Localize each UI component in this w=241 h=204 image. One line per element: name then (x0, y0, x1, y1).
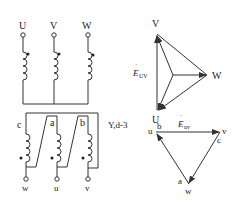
connection-group-label: Y,d-3 (108, 120, 128, 130)
polarity-dot-a (51, 157, 54, 160)
primary-winding-set: U V W (19, 20, 95, 104)
emf-label-uv: E · uv (177, 112, 190, 130)
terminal-label-W: W (82, 20, 92, 31)
coil-U (23, 52, 27, 80)
svg-text:E: E (132, 68, 139, 78)
svg-text:E: E (177, 119, 184, 129)
vertex-label-u: u (148, 126, 153, 136)
phasor-vertex-V: V (152, 18, 160, 29)
coil-c (26, 134, 30, 162)
terminal-label-V: V (50, 20, 58, 31)
winding-label-c: c (17, 119, 22, 130)
vertex-label-w: w (185, 186, 192, 196)
terminal-label-v: v (85, 183, 90, 193)
terminal-W (86, 33, 90, 37)
terminal-v (86, 177, 90, 181)
vertex-label-v: v (222, 126, 227, 136)
emf-label-UV: E · UV (132, 61, 148, 79)
svg-text:UV: UV (139, 73, 148, 79)
winding-label-b: b (80, 117, 85, 128)
coil-V (54, 52, 58, 80)
terminal-u (55, 177, 59, 181)
terminal-label-U: U (19, 20, 27, 31)
terminal-U (21, 33, 25, 37)
secondary-winding-set: c a b w u v (17, 113, 98, 193)
terminal-w (24, 177, 28, 181)
coil-b (88, 134, 92, 162)
vertex-label-a: a (178, 176, 182, 186)
winding-label-a: a (50, 117, 55, 128)
svg-text:·: · (180, 112, 182, 120)
polarity-dot-c (20, 157, 23, 160)
terminal-label-w: w (22, 183, 29, 193)
winding-diagram: U V W c a b (0, 0, 241, 204)
svg-text:·: · (135, 61, 137, 69)
vertex-label-c: c (217, 135, 221, 145)
polarity-dot-b (82, 157, 85, 160)
terminal-label-u: u (54, 183, 59, 193)
coil-a (57, 134, 61, 162)
terminal-V (52, 33, 56, 37)
primary-phasor-diagram: V W U E · UV (132, 18, 222, 125)
coil-W (88, 52, 92, 80)
vertex-label-b: b (157, 121, 162, 131)
svg-text:uv: uv (184, 124, 190, 130)
secondary-phasor-diagram: E · uv u b v c a w (148, 112, 227, 196)
phasor-vertex-W: W (212, 70, 222, 81)
